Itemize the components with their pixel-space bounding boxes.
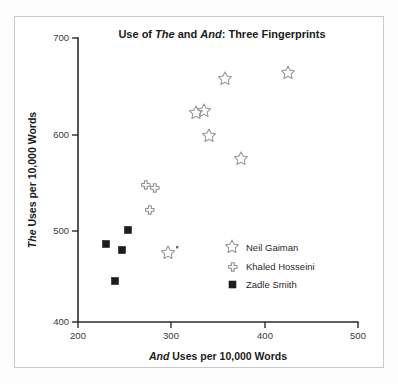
data-point-square xyxy=(112,278,119,285)
y-tick-label-700: 700 xyxy=(53,32,69,43)
x-axis-title-part-0: And xyxy=(148,350,170,362)
legend: Neil Gaiman Khaled Hosseini Zadle Smith xyxy=(226,240,315,290)
data-point-square xyxy=(119,247,126,254)
data-point-square xyxy=(125,227,132,234)
y-axis-title: The Uses per 10,000 Words xyxy=(26,112,38,249)
legend-label-zadle-smith: Zadle Smith xyxy=(246,279,297,290)
data-point-star xyxy=(282,66,295,78)
figure-container: Use of The and And: Three Fingerprints 7… xyxy=(0,0,398,384)
x-tick-label-400: 400 xyxy=(257,330,273,341)
data-point-square xyxy=(103,241,110,248)
y-tick-label-400: 400 xyxy=(53,316,69,327)
legend-star-icon xyxy=(226,240,239,252)
y-tick-label-500: 500 xyxy=(53,225,69,236)
data-point-star xyxy=(162,246,175,258)
y-tick-label-600: 600 xyxy=(53,129,69,140)
legend-label-khaled-hosseini: Khaled Hosseini xyxy=(246,261,315,272)
data-point-star xyxy=(235,152,248,164)
title-part-3: And xyxy=(199,28,222,40)
title-part-1: The xyxy=(155,28,175,40)
x-axis: 200 300 400 500 xyxy=(70,322,366,341)
data-point-star xyxy=(219,72,232,84)
series-neil-gaiman xyxy=(162,66,295,258)
legend-label-neil-gaiman: Neil Gaiman xyxy=(246,242,298,253)
scatter-plot: Use of The and And: Three Fingerprints 7… xyxy=(0,0,398,384)
series-zadle-smith xyxy=(103,227,132,285)
legend-square-icon xyxy=(229,281,236,288)
x-tick-label-300: 300 xyxy=(163,330,179,341)
title-part-4: : Three Fingerprints xyxy=(222,28,326,40)
data-point-cross xyxy=(146,206,154,214)
x-tick-label-200: 200 xyxy=(70,330,86,341)
data-point-cross xyxy=(151,184,159,192)
x-tick-label-500: 500 xyxy=(350,330,366,341)
y-axis-title-part-0: The xyxy=(26,229,38,248)
legend-cross-icon xyxy=(229,263,237,271)
data-point-star xyxy=(203,129,216,141)
x-axis-title: And Uses per 10,000 Words xyxy=(148,350,287,362)
title-part-2: and xyxy=(175,28,201,40)
x-axis-title-part-1: Uses per 10,000 Words xyxy=(169,350,287,362)
chart-title: Use of The and And: Three Fingerprints xyxy=(118,28,325,40)
scan-speck xyxy=(176,246,178,248)
data-point-cross xyxy=(142,181,150,189)
title-part-0: Use of xyxy=(118,28,155,40)
series-khaled-hosseini xyxy=(142,181,159,214)
y-axis-title-part-1: Uses per 10,000 Words xyxy=(26,112,38,230)
y-axis: 700 600 500 400 xyxy=(53,32,78,327)
